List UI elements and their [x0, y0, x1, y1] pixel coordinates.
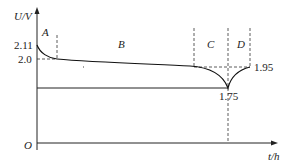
y-axis-label: U/V: [14, 10, 33, 22]
region-b-label: B: [118, 38, 125, 50]
origin-label: O: [24, 139, 32, 151]
region-c-label: C: [207, 38, 215, 50]
y-tick-211: 2.11: [14, 39, 33, 51]
region-d-label: D: [236, 38, 245, 50]
discharge-curve: [37, 45, 250, 88]
x-axis-label: t/h: [268, 150, 280, 161]
y-axis-arrow-icon: [35, 7, 40, 14]
x-axis-arrow-icon: [271, 141, 278, 146]
region-a-label: A: [41, 26, 49, 38]
y-tick-20: 2.0: [18, 53, 32, 65]
value-175-label: 1.75: [219, 90, 239, 102]
value-195-label: 1.95: [254, 61, 274, 73]
chart: U/V t/h O 2.11 2.0 A B C D 1.95 1.75: [0, 0, 296, 161]
